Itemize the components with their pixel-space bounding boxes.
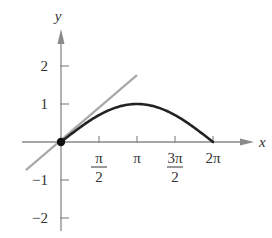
x-tick-label-numerator: π: [95, 150, 103, 166]
labels: xyπ2π3π22π21−1−2: [32, 8, 266, 226]
x-tick-label-denominator: 2: [171, 169, 179, 185]
x-tick-label: 2π: [205, 150, 221, 166]
x-tick-label: π: [133, 150, 141, 166]
x-tick-label-denominator: 2: [95, 169, 103, 185]
y-tick-label: −1: [32, 172, 48, 188]
y-tick-label: 2: [41, 58, 49, 74]
x-tick-label-numerator: 3π: [167, 150, 183, 166]
y-axis-label: y: [53, 8, 62, 24]
y-tick-label: 1: [41, 96, 49, 112]
origin-point: [57, 138, 65, 146]
axes: [22, 29, 254, 231]
x-axis-arrow-icon: [240, 139, 254, 146]
tangent-line: [26, 75, 137, 170]
x-axis-label: x: [258, 134, 266, 150]
chart: xyπ2π3π22π21−1−2: [0, 0, 272, 238]
series-layer: [26, 75, 213, 170]
y-axis-arrow-icon: [58, 29, 65, 44]
y-tick-label: −2: [32, 210, 48, 226]
